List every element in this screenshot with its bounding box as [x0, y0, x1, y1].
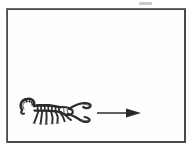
scorpion-illustration — [16, 94, 94, 130]
scorpion-pincer-upper — [83, 103, 90, 108]
scorpion-leg-4 — [51, 111, 53, 123]
scorpion-pedipalp-upper-arm — [69, 103, 84, 109]
scorpion-stinger — [21, 110, 24, 114]
scorpion-svg — [16, 94, 94, 130]
direction-arrow-svg — [96, 104, 146, 120]
figure-root — [0, 0, 194, 150]
scorpion-pincer-upper-inner — [85, 105, 89, 107]
scorpion-tail-inner — [23, 101, 33, 109]
scan-artifact-icon — [139, 2, 152, 5]
arrow-head-icon — [126, 108, 141, 117]
scorpion-leg-1 — [34, 111, 38, 123]
scorpion-leg-5 — [56, 112, 58, 123]
scorpion-leg-2 — [41, 111, 43, 124]
figure-stage — [6, 8, 186, 143]
direction-arrow — [96, 104, 146, 120]
